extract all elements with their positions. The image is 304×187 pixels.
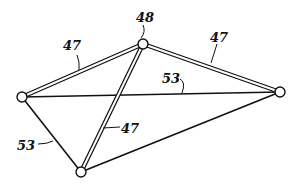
cable-bottom-right (81, 92, 280, 172)
leader-47-bottom (103, 127, 120, 128)
cable-left-bottom (22, 97, 81, 172)
leader-53-left (38, 141, 53, 144)
leader-47-right (211, 44, 217, 63)
ref-label-53-left: 53 (17, 138, 35, 153)
ref-label-47-left: 47 (63, 38, 81, 53)
node-right (275, 87, 285, 97)
leader-53-center (180, 79, 184, 93)
leader-47-left (77, 55, 79, 70)
diagram-canvas: 48 47 47 53 47 53 (0, 0, 304, 187)
node-left (17, 92, 27, 102)
strut-top-bottom (81, 44, 143, 172)
ref-label-47-bottom: 47 (121, 121, 139, 136)
ref-label-48: 48 (136, 10, 154, 25)
strut-top-left (22, 44, 143, 97)
node-top (138, 39, 148, 49)
node-bottom (76, 167, 86, 177)
ref-label-47-right: 47 (210, 30, 228, 45)
cable-left-right (22, 92, 280, 97)
leader-48 (141, 25, 144, 38)
ref-label-53-center: 53 (162, 71, 180, 86)
